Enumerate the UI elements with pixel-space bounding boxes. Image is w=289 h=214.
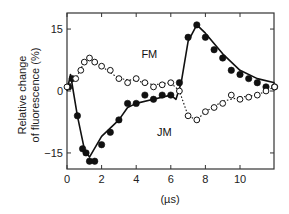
x-tick-label: 10 — [234, 173, 246, 185]
y-tick-label: 15 — [51, 23, 63, 35]
fm-data-point — [272, 84, 278, 90]
jm-data-point — [107, 129, 113, 135]
fm-data-point — [177, 88, 183, 94]
jm-data-point — [159, 92, 165, 98]
jm-data-point — [124, 100, 130, 106]
jm-data-point — [194, 22, 200, 28]
jm-data-point — [220, 55, 226, 61]
fm-data-point — [211, 105, 217, 111]
x-tick-label: 0 — [64, 173, 70, 185]
plot-border — [67, 13, 274, 169]
fm-data-point — [194, 117, 200, 123]
fm-fit-line — [67, 58, 275, 120]
fm-data-point — [159, 82, 165, 88]
jm-data-point — [176, 80, 182, 86]
x-tick-label: 6 — [168, 173, 174, 185]
y-axis-label-line-2: of fluorescence (%) — [29, 48, 41, 143]
fm-data-point — [87, 55, 93, 61]
fm-data-point — [203, 109, 209, 115]
x-tick-label: 8 — [202, 173, 208, 185]
jm-series-label: JM — [157, 126, 172, 138]
x-axis-label: (µs) — [160, 193, 179, 205]
y-tick-label: 0 — [57, 85, 63, 97]
fm-data-point — [228, 92, 234, 98]
jm-data-point — [150, 96, 156, 102]
fm-data-point — [237, 96, 243, 102]
fm-data-point — [220, 101, 226, 107]
jm-data-point — [202, 34, 208, 40]
jm-data-point — [83, 150, 89, 156]
fm-series-label: FM — [141, 48, 157, 60]
y-axis-ticks: −15015 — [44, 23, 274, 159]
fm-data-point — [78, 67, 84, 73]
jm-data-point — [246, 75, 252, 81]
fm-data-point — [263, 88, 269, 94]
plot-frame — [67, 13, 274, 169]
fm-data-point — [168, 80, 174, 86]
jm-data-point — [116, 117, 122, 123]
jm-data-point — [228, 67, 234, 73]
jm-data-point — [237, 71, 243, 77]
jm-data-point — [74, 113, 80, 119]
jm-data-point — [142, 92, 148, 98]
fm-data-point — [185, 113, 191, 119]
fm-data-point — [99, 63, 105, 69]
jm-data-point — [133, 100, 139, 106]
fm-data-point — [246, 94, 252, 100]
fm-data-point — [81, 59, 87, 65]
fm-data-point — [64, 84, 70, 90]
fm-data-point — [133, 76, 139, 82]
y-tick-label: −15 — [44, 147, 63, 159]
x-tick-label: 2 — [99, 173, 105, 185]
fm-data-point — [142, 80, 148, 86]
fm-data-point — [151, 84, 157, 90]
fm-data-point — [107, 67, 113, 73]
x-tick-label: 4 — [133, 173, 139, 185]
fm-data-point — [92, 59, 98, 65]
jm-data-point — [92, 158, 98, 164]
jm-data-point — [168, 92, 174, 98]
jm-data-point — [98, 142, 104, 148]
fm-data-point — [116, 76, 122, 82]
y-axis-label-line-1: Relative change — [16, 56, 28, 135]
data-points — [64, 22, 278, 165]
fm-data-point — [125, 80, 131, 86]
y-axis-label: Relative change of fluorescence (%) — [16, 48, 41, 143]
jm-data-point — [185, 34, 191, 40]
fm-data-point — [254, 92, 260, 98]
jm-data-point — [254, 80, 260, 86]
fm-data-point — [73, 76, 79, 82]
jm-data-point — [211, 47, 217, 53]
chart: 0246810 −15015 JMFM (µs) Relative change… — [0, 0, 289, 214]
